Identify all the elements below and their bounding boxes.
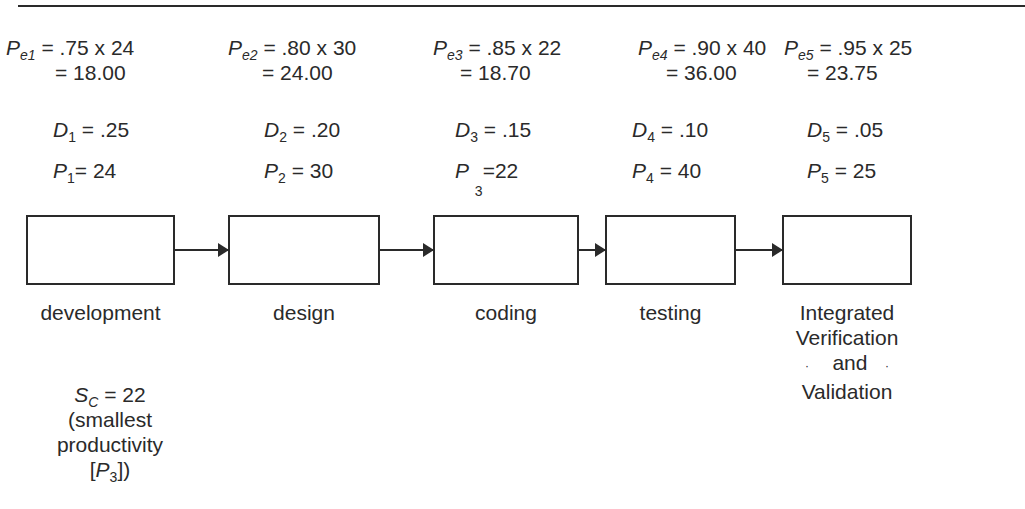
stage-label-ivv: Integrated Verification · and · Validati… xyxy=(782,300,912,404)
pe1-formula: Pe1 = .75 x 24 xyxy=(6,36,134,60)
stage-label-development: development xyxy=(26,300,175,325)
note-line-4: [P3]) xyxy=(30,457,190,482)
stage-label-coding: coding xyxy=(433,300,579,325)
pe3-result: = 18.70 xyxy=(460,61,531,85)
d3-value: D3 = .15 xyxy=(455,118,531,142)
pe4-result: = 36.00 xyxy=(666,61,737,85)
stage-box-development xyxy=(26,215,175,285)
arrow-testing-to-ivv xyxy=(736,249,782,251)
note-line-2: (smallest xyxy=(30,407,190,432)
d1-value: D1 = .25 xyxy=(53,118,129,142)
arrow-design-to-coding xyxy=(380,249,433,251)
pe5-result: = 23.75 xyxy=(807,61,878,85)
pe5-formula: Pe5 = .95 x 25 xyxy=(784,36,912,60)
p3-value: P 3=22 xyxy=(455,159,518,191)
stage-label-testing: testing xyxy=(605,300,736,325)
stage-label-design: design xyxy=(228,300,380,325)
stage-box-testing xyxy=(605,215,736,285)
top-rule xyxy=(18,5,1025,7)
pe2-result: = 24.00 xyxy=(262,61,333,85)
p5-value: P5 = 25 xyxy=(807,159,876,183)
sc-value: SC = 22 xyxy=(30,382,190,407)
d4-value: D4 = .10 xyxy=(632,118,708,142)
d5-value: D5 = .05 xyxy=(807,118,883,142)
arrow-coding-to-testing xyxy=(579,249,605,251)
p1-value: P1= 24 xyxy=(53,159,116,183)
ivv-line-1: Integrated xyxy=(782,300,912,325)
p4-value: P4 = 40 xyxy=(632,159,701,183)
pe2-formula: Pe2 = .80 x 30 xyxy=(228,36,356,60)
ivv-line-4: Validation xyxy=(782,379,912,404)
ivv-line-2: Verification xyxy=(782,325,912,350)
pe3-formula: Pe3 = .85 x 22 xyxy=(433,36,561,60)
pe1-result: = 18.00 xyxy=(55,61,126,85)
smallest-productivity-note: SC = 22 (smallest productivity [P3]) xyxy=(30,382,190,482)
ivv-line-3: · and · xyxy=(782,350,912,379)
note-line-3: productivity xyxy=(30,432,190,457)
stage-box-ivv xyxy=(782,215,912,285)
p2-value: P2 = 30 xyxy=(264,159,333,183)
arrow-development-to-design xyxy=(175,249,228,251)
stage-box-coding xyxy=(433,215,579,285)
pe4-formula: Pe4 = .90 x 40 xyxy=(638,36,766,60)
d2-value: D2 = .20 xyxy=(264,118,340,142)
stage-box-design xyxy=(228,215,380,285)
